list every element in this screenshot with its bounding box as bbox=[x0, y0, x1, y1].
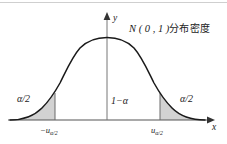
left-tail-area-label: α/2 bbox=[17, 94, 30, 104]
figure-title-math: N ( 0 , 1 ) bbox=[129, 23, 169, 34]
center-confidence-label: 1−α bbox=[111, 96, 128, 106]
right-critical-value-label: uα/2 bbox=[151, 126, 163, 136]
right-critical-value-subscript: α/2 bbox=[155, 130, 163, 136]
normal-distribution-figure: N ( 0 , 1 )分布密度 y x α/2 α/2 1−α −uα/2 uα… bbox=[0, 0, 227, 144]
figure-title-cjk: 分布密度 bbox=[169, 23, 210, 34]
left-critical-value-subscript: α/2 bbox=[50, 130, 58, 136]
y-axis-label: y bbox=[113, 14, 117, 24]
x-axis-label: x bbox=[212, 123, 216, 133]
y-axis-arrowhead bbox=[104, 12, 111, 20]
left-critical-value-label: −uα/2 bbox=[40, 126, 58, 136]
left-critical-value-base: −u bbox=[40, 125, 50, 135]
right-tail-area-label: α/2 bbox=[180, 94, 193, 104]
figure-title: N ( 0 , 1 )分布密度 bbox=[129, 24, 210, 35]
